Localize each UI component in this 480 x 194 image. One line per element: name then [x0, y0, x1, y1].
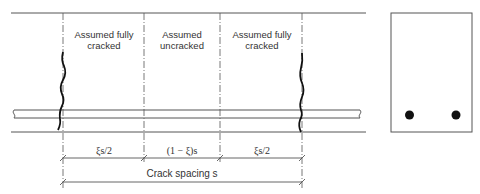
dimension-label-crack-spacing: Crack spacing s: [146, 168, 217, 179]
region-label-right-line1: Assumed fully: [232, 29, 291, 40]
crack-spacing-diagram: Assumed fully cracked Assumed uncracked …: [0, 0, 480, 194]
crack-right: [299, 53, 303, 132]
region-label-left-line2: cracked: [87, 40, 120, 51]
dimension-label-one-minus-xi-s: (1 − ξ)s: [167, 145, 198, 157]
dimension-label-xi-s-half-right: ξs/2: [254, 145, 270, 157]
region-label-middle-line2: uncracked: [160, 40, 204, 51]
dimension-label-xi-s-half-left: ξs/2: [96, 145, 112, 157]
rebar-dot-left: [405, 111, 414, 120]
dimension-line-total: [60, 179, 305, 185]
reinforcing-bar: [13, 110, 361, 118]
region-label-left-line1: Assumed fully: [74, 29, 133, 40]
region-label-right-line2: cracked: [245, 40, 278, 51]
region-label-middle-line1: Assumed: [162, 29, 202, 40]
rebar-dot-right: [452, 111, 461, 120]
